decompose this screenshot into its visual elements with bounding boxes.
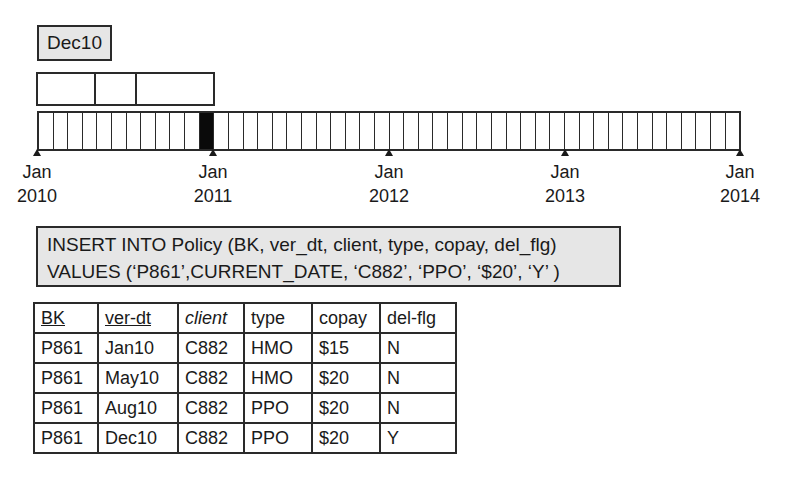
cell-copay: $20 (312, 363, 380, 393)
timeline-month-cell (594, 113, 609, 149)
table-row: P861 May10 C882 HMO $20 N (34, 363, 456, 393)
sql-line-2: VALUES (‘P861’,CURRENT_DATE, ‘C882’, ‘PP… (47, 258, 619, 285)
tick-marker-icon (33, 149, 41, 156)
cell-bk: P861 (34, 423, 98, 453)
version-segment (96, 74, 137, 104)
timeline-month-cell (667, 113, 682, 149)
cell-del-flg: Y (380, 423, 456, 453)
timeline-month-cell (638, 113, 653, 149)
header-ver-dt: ver-dt (98, 303, 178, 333)
tick-year: 2011 (173, 184, 253, 208)
timeline-month-cell (83, 113, 98, 149)
table-row: P861 Dec10 C882 PPO $20 Y (34, 423, 456, 453)
header-type: type (244, 303, 312, 333)
axis-tick-label: Jan2012 (349, 160, 429, 208)
timeline-month-cell (448, 113, 463, 149)
timeline-month-cell-current (200, 113, 215, 149)
cell-type: HMO (244, 333, 312, 363)
cell-del-flg: N (380, 393, 456, 423)
cell-ver-dt: Aug10 (98, 393, 178, 423)
timeline-month-cell (185, 113, 200, 149)
current-version-label: Dec10 (37, 25, 112, 61)
timeline-month-cell (331, 113, 346, 149)
timeline-month-cell (287, 113, 302, 149)
axis-tick-label: Jan2014 (700, 160, 780, 208)
header-copay: copay (312, 303, 380, 333)
cell-del-flg: N (380, 333, 456, 363)
timeline-month-cell (127, 113, 142, 149)
cell-type: PPO (244, 423, 312, 453)
monthly-timeline (37, 111, 741, 151)
tick-marker-icon (209, 149, 217, 156)
header-bk: BK (34, 303, 98, 333)
cell-type: PPO (244, 393, 312, 423)
cell-client: C882 (178, 333, 244, 363)
timeline-month-cell (375, 113, 390, 149)
header-client: client (178, 303, 244, 333)
cell-copay: $15 (312, 333, 380, 363)
timeline-month-cell (623, 113, 638, 149)
timeline-month-cell (726, 113, 740, 149)
cell-del-flg: N (380, 363, 456, 393)
timeline-month-cell (141, 113, 156, 149)
timeline-month-cell (550, 113, 565, 149)
cell-ver-dt: Dec10 (98, 423, 178, 453)
cell-client: C882 (178, 393, 244, 423)
timeline-month-cell (609, 113, 624, 149)
tick-month: Jan (0, 160, 77, 184)
tick-marker-icon (385, 149, 393, 156)
cell-ver-dt: May10 (98, 363, 178, 393)
tick-month: Jan (349, 160, 429, 184)
cell-copay: $20 (312, 423, 380, 453)
timeline-month-cell (156, 113, 171, 149)
timeline-month-cell (68, 113, 83, 149)
timeline-month-cell (317, 113, 332, 149)
cell-bk: P861 (34, 363, 98, 393)
timeline-month-cell (39, 113, 54, 149)
timeline-month-cell (580, 113, 595, 149)
tick-marker-icon (561, 149, 569, 156)
tick-year: 2010 (0, 184, 77, 208)
timeline-month-cell (682, 113, 697, 149)
table-header-row: BK ver-dt client type copay del-flg (34, 303, 456, 333)
timeline-month-cell (258, 113, 273, 149)
timeline-month-cell (477, 113, 492, 149)
tick-month: Jan (173, 160, 253, 184)
tick-year: 2013 (525, 184, 605, 208)
version-segments-bar (36, 72, 215, 106)
timeline-month-cell (346, 113, 361, 149)
timeline-month-cell (419, 113, 434, 149)
tick-year: 2014 (700, 184, 780, 208)
tick-marker-icon (736, 149, 744, 156)
cell-ver-dt: Jan10 (98, 333, 178, 363)
version-segment (137, 74, 213, 104)
timeline-month-cell (244, 113, 259, 149)
timeline-month-cell (390, 113, 405, 149)
timeline-month-cell (492, 113, 507, 149)
timeline-month-cell (112, 113, 127, 149)
sql-insert-statement: INSERT INTO Policy (BK, ver_dt, client, … (36, 226, 621, 287)
timeline-month-cell (507, 113, 522, 149)
timeline-month-cell (711, 113, 726, 149)
timeline-month-cell (273, 113, 288, 149)
tick-year: 2012 (349, 184, 429, 208)
version-segment (38, 74, 96, 104)
timeline-month-cell (565, 113, 580, 149)
table-row: P861 Aug10 C882 PPO $20 N (34, 393, 456, 423)
axis-tick-label: Jan2010 (0, 160, 77, 208)
timeline-month-cell (653, 113, 668, 149)
timeline-month-cell (214, 113, 229, 149)
policy-table: BK ver-dt client type copay del-flg P861… (33, 302, 457, 454)
header-del-flg: del-flg (380, 303, 456, 333)
cell-bk: P861 (34, 393, 98, 423)
timeline-month-cell (302, 113, 317, 149)
timeline-month-cell (696, 113, 711, 149)
tick-month: Jan (700, 160, 780, 184)
cell-copay: $20 (312, 393, 380, 423)
axis-tick-label: Jan2013 (525, 160, 605, 208)
cell-client: C882 (178, 423, 244, 453)
timeline-month-cell (54, 113, 69, 149)
axis-tick-label: Jan2011 (173, 160, 253, 208)
cell-type: HMO (244, 363, 312, 393)
timeline-month-cell (463, 113, 478, 149)
